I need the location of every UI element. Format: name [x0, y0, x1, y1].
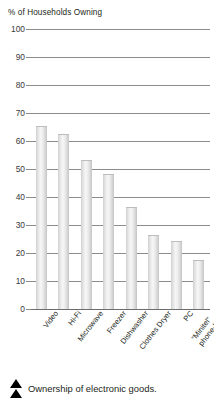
- y-axis-title: % of Households Owning: [8, 8, 102, 17]
- x-axis-labels: VideoHi-FiMicrowaveFreezerDishwasherClot…: [30, 309, 214, 369]
- y-axis-tick-label: 60: [0, 136, 25, 146]
- bar: [81, 160, 92, 309]
- x-axis-label-line: PC: [182, 309, 196, 323]
- bar: [126, 207, 137, 309]
- y-axis-tick-label: 30: [0, 220, 25, 230]
- y-axis-tick-label: 20: [0, 248, 25, 258]
- chart-figure: % of Households Owning 10090807060504030…: [0, 0, 214, 404]
- bar: [193, 260, 204, 309]
- y-axis-tick-label: 10: [0, 276, 25, 286]
- y-axis-tick-label: 90: [0, 52, 25, 62]
- y-axis-tick-label: 50: [0, 164, 25, 174]
- x-axis-label: Video: [41, 309, 60, 330]
- y-axis-tick-label: 0: [0, 304, 25, 314]
- bar: [58, 134, 69, 309]
- y-axis-tick-label: 70: [0, 108, 25, 118]
- x-axis-label-line: Hi-Fi: [66, 309, 83, 327]
- y-axis-tick-label: 40: [0, 192, 25, 202]
- y-axis-tick-label: 100: [0, 24, 25, 34]
- x-axis-label: Hi-Fi: [66, 309, 83, 327]
- bar: [103, 174, 114, 309]
- bar: [171, 241, 182, 309]
- double-triangle-up-icon: [10, 379, 22, 398]
- figure-caption: Ownership of electronic goods.: [10, 379, 157, 398]
- y-axis-tick-label: 80: [0, 80, 25, 90]
- caption-text: Ownership of electronic goods.: [28, 383, 157, 394]
- bar: [148, 235, 159, 309]
- bar-series: [30, 29, 210, 309]
- x-axis-label-line: Video: [41, 309, 60, 330]
- bar: [36, 126, 47, 309]
- plot-area: 1009080706050403020100: [30, 29, 210, 309]
- x-axis-label: PC: [182, 309, 196, 323]
